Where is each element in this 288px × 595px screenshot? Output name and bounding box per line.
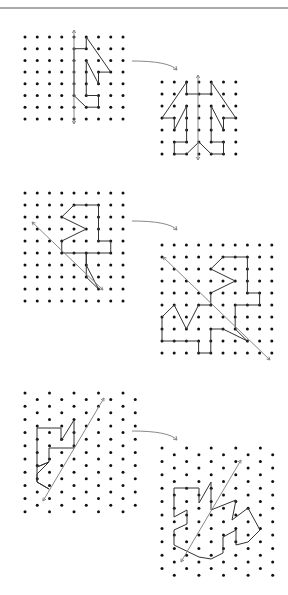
grid-dot (222, 292, 225, 295)
grid-dot (122, 458, 125, 461)
grid-dot (270, 280, 273, 283)
grid-dot (24, 94, 27, 97)
grid-dot (48, 300, 51, 303)
grid-dot (60, 300, 63, 303)
grid-dot (60, 411, 63, 414)
grid-dot (36, 47, 39, 50)
grid-dot (185, 256, 188, 259)
grid-dot (161, 268, 164, 271)
grid-dot (24, 240, 27, 243)
grid-dot (122, 444, 125, 447)
grid-dot (161, 473, 164, 476)
grid-dot (258, 268, 261, 271)
grid-dot (234, 93, 237, 96)
grid-dot (197, 256, 200, 259)
transform-arrow (132, 221, 177, 230)
grid-dot (60, 504, 63, 507)
grid-dot (209, 280, 212, 283)
grid-dot (97, 458, 100, 461)
grid-dot (209, 316, 212, 319)
grid-dot (24, 228, 27, 231)
grid-dot (24, 471, 27, 474)
grid-dot (247, 493, 250, 496)
grid-dot (259, 554, 262, 557)
grid-dot (161, 447, 164, 450)
grid-dot (122, 300, 125, 303)
grid-dot (24, 288, 27, 291)
grid-dot (259, 487, 262, 490)
grid-dot (97, 192, 100, 195)
grid-dot (97, 431, 100, 434)
grid-dot (271, 520, 274, 523)
symmetry-diagram-page (0, 0, 288, 595)
grid-dot (210, 527, 213, 530)
grid-dot (48, 418, 51, 421)
grid-dot (210, 447, 213, 450)
grid-dot (24, 252, 27, 255)
grid-dot (73, 392, 76, 395)
grid-dot (109, 464, 112, 467)
grid-dot (97, 47, 100, 50)
grid-dot (36, 276, 39, 279)
grid-dot (197, 574, 200, 577)
grid-dot (271, 547, 274, 550)
exercise-3-target-grid (161, 447, 275, 577)
grid-dot (109, 59, 112, 62)
grid-dot (222, 520, 225, 523)
grid-dot (122, 405, 125, 408)
grid-dot (134, 451, 137, 454)
grid-dot (210, 514, 213, 517)
symmetry-axis (32, 222, 103, 290)
grid-dot (271, 453, 274, 456)
grid-dot (24, 47, 27, 50)
grid-dot (122, 59, 125, 62)
grid-dot (73, 510, 76, 513)
grid-dot (122, 276, 125, 279)
grid-dot (48, 252, 51, 255)
grid-dot (185, 527, 188, 530)
grid-dot (73, 192, 76, 195)
grid-dot (173, 574, 176, 577)
grid-dot (73, 264, 76, 267)
grid-dot (173, 547, 176, 550)
grid-dot (197, 480, 200, 483)
grid-dot (60, 398, 63, 401)
grid-dot (36, 425, 39, 428)
grid-dot (234, 81, 237, 84)
grid-dot (271, 534, 274, 537)
grid-dot (161, 105, 164, 108)
grid-dot (97, 484, 100, 487)
grid-dot (247, 480, 250, 483)
grid-dot (36, 300, 39, 303)
grid-dot (60, 204, 63, 207)
grid-dot (161, 280, 164, 283)
symmetry-axis (163, 257, 270, 360)
grid-dot (222, 93, 225, 96)
grid-dot (185, 447, 188, 450)
grid-dot (60, 117, 63, 120)
grid-dot (234, 352, 237, 355)
grid-dot (36, 71, 39, 74)
grid-dot (271, 507, 274, 510)
grid-dot (197, 547, 200, 550)
grid-dot (134, 464, 137, 467)
grid-dot (97, 392, 100, 395)
grid-dot (36, 94, 39, 97)
grid-dot (85, 300, 88, 303)
grid-dot (161, 244, 164, 247)
grid-dot (109, 117, 112, 120)
grid-dot (161, 567, 164, 570)
grid-dot (36, 106, 39, 109)
grid-dot (48, 431, 51, 434)
grid-dot (122, 106, 125, 109)
grid-dot (85, 288, 88, 291)
grid-dot (73, 458, 76, 461)
grid-dot (258, 340, 261, 343)
grid-dot (24, 36, 27, 39)
grid-dot (185, 473, 188, 476)
grid-dot (36, 82, 39, 85)
grid-dot (173, 352, 176, 355)
grid-dot (173, 328, 176, 331)
grid-dot (73, 216, 76, 219)
grid-dot (24, 276, 27, 279)
